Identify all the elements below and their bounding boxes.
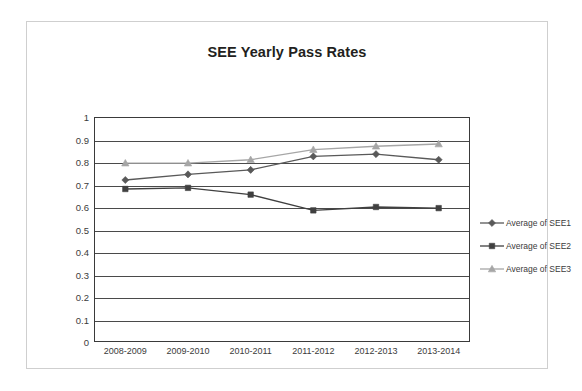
y-axis: 10.90.80.70.60.50.40.30.20.10	[53, 117, 89, 342]
data-point-marker	[435, 156, 442, 163]
x-axis-tick-label: 2012-2013	[354, 346, 397, 356]
legend-item[interactable]: Average of SEE2	[479, 234, 571, 257]
data-point-marker	[248, 192, 253, 197]
y-axis-tick-label: 0.1	[55, 314, 89, 325]
y-axis-tick-label: 0.4	[55, 247, 89, 258]
data-point-marker	[436, 205, 441, 210]
series-layer	[94, 117, 470, 342]
x-axis-tick-label: 2009-2010	[166, 346, 209, 356]
legend-marker-square-icon	[479, 239, 505, 253]
chart-frame: SEE Yearly Pass Rates 10.90.80.70.60.50.…	[26, 21, 548, 369]
series-diamond	[122, 151, 442, 184]
series-triangle	[122, 140, 443, 166]
x-axis-tick-label: 2013-2014	[417, 346, 460, 356]
data-point-marker	[184, 171, 191, 178]
legend-marker-triangle-icon	[479, 262, 505, 276]
data-point-marker	[185, 185, 190, 190]
y-axis-tick-label: 0.3	[55, 269, 89, 280]
y-axis-tick-label: 0.6	[55, 202, 89, 213]
data-point-marker	[122, 176, 129, 183]
series-line	[125, 154, 438, 180]
chart-legend: Average of SEE1Average of SEE2Average of…	[479, 211, 571, 280]
data-point-marker	[310, 153, 317, 160]
data-point-marker	[247, 166, 254, 173]
legend-item-label: Average of SEE3	[506, 264, 571, 274]
series-line	[125, 144, 438, 163]
y-axis-tick-label: 0	[55, 337, 89, 348]
y-axis-tick-label: 0.5	[55, 224, 89, 235]
data-point-marker	[373, 204, 378, 209]
data-point-marker	[372, 151, 379, 158]
series-line	[125, 188, 438, 211]
y-axis-tick-label: 1	[55, 112, 89, 123]
chart-title: SEE Yearly Pass Rates	[27, 44, 547, 60]
x-axis-tick-label: 2008-2009	[104, 346, 147, 356]
y-axis-tick-label: 0.7	[55, 179, 89, 190]
y-axis-tick-label: 0.9	[55, 134, 89, 145]
legend-item[interactable]: Average of SEE1	[479, 211, 571, 234]
series-square	[123, 185, 442, 213]
legend-marker-diamond-icon	[479, 216, 505, 230]
x-axis: 2008-20092009-20102010-20112011-20122012…	[94, 346, 470, 366]
x-axis-tick-label: 2010-2011	[229, 346, 271, 356]
y-axis-tick-label: 0.8	[55, 157, 89, 168]
legend-item-label: Average of SEE2	[506, 241, 571, 251]
y-axis-tick-label: 0.2	[55, 292, 89, 303]
x-axis-tick-label: 2011-2012	[292, 346, 334, 356]
data-point-marker	[123, 186, 128, 191]
legend-item[interactable]: Average of SEE3	[479, 257, 571, 280]
legend-item-label: Average of SEE1	[506, 218, 571, 228]
data-point-marker	[311, 208, 316, 213]
